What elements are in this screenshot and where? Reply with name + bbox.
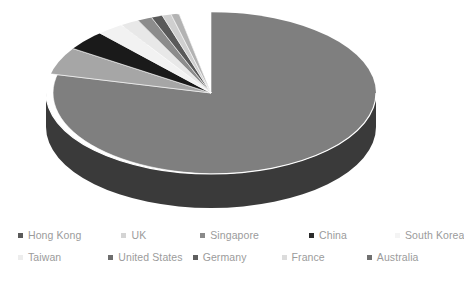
legend-label-taiwan: Taiwan <box>28 251 61 263</box>
legend-item-taiwan[interactable]: Taiwan <box>18 251 61 263</box>
legend-item-uk[interactable]: UK <box>121 229 146 241</box>
pie-plot-area <box>0 0 423 218</box>
legend-swatch-australia <box>367 255 372 260</box>
legend-label-hong-kong: Hong Kong <box>28 229 81 241</box>
legend-label-singapore: Singapore <box>210 229 259 241</box>
legend-swatch-uk <box>121 233 126 238</box>
legend-row-1: Hong Kong UK Singapore China South Korea <box>14 224 409 246</box>
legend-item-hong-kong[interactable]: Hong Kong <box>18 229 81 241</box>
legend-swatch-france <box>282 255 287 260</box>
legend-label-germany: Germany <box>203 251 247 263</box>
legend-item-australia[interactable]: Australia <box>367 251 419 263</box>
legend-swatch-taiwan <box>18 255 23 260</box>
legend-item-south-korea[interactable]: South Korea <box>395 229 464 241</box>
legend-item-united-states[interactable]: United States <box>108 251 182 263</box>
legend-label-china: China <box>319 229 347 241</box>
legend-item-china[interactable]: China <box>309 229 347 241</box>
legend-swatch-china <box>309 233 314 238</box>
legend-row-2: Taiwan United States Germany France Aust… <box>14 246 409 268</box>
legend-label-france: France <box>292 251 325 263</box>
legend-label-australia: Australia <box>377 251 419 263</box>
legend-label-uk: UK <box>131 229 146 241</box>
legend-item-germany[interactable]: Germany <box>193 251 247 263</box>
legend-label-south-korea: South Korea <box>405 229 464 241</box>
legend-swatch-south-korea <box>395 233 400 238</box>
legend-swatch-united-states <box>108 255 113 260</box>
legend-swatch-singapore <box>200 233 205 238</box>
legend-item-singapore[interactable]: Singapore <box>200 229 259 241</box>
legend-item-france[interactable]: France <box>282 251 325 263</box>
pie-chart-svg <box>0 0 423 218</box>
legend-swatch-germany <box>193 255 198 260</box>
legend-swatch-hong-kong <box>18 233 23 238</box>
legend-label-united-states: United States <box>118 251 182 263</box>
chart-legend: Hong Kong UK Singapore China South Korea <box>0 224 423 280</box>
